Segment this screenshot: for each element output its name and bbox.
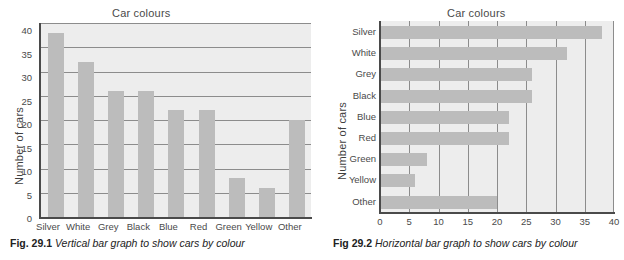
bar-red [199,110,215,217]
hbar-yellow [380,174,415,187]
gridline-x-35 [585,21,586,212]
y-tick-25: 25 [10,96,32,107]
y-axis-line-horizontal [379,21,381,213]
cat-label-red: Red [184,221,214,232]
gridline-35 [40,47,311,48]
hbar-grey [380,68,532,81]
bar-grey [108,91,124,217]
cat-label-yellow: Yellow [243,221,275,232]
cat-label-yellow-h: Yellow [338,174,376,185]
cat-label-other-h: Other [338,196,376,207]
caption-29-1: Fig. 29.1 Vertical bar graph to show car… [10,237,245,249]
cat-label-blue-h: Blue [340,111,376,122]
cat-label-white-h: White [340,47,376,58]
hbar-red [380,132,509,145]
cat-label-white: White [63,221,93,232]
hbar-green [380,153,427,166]
x-tick-5: 5 [399,216,419,227]
bar-black [138,91,154,217]
x-tick-25: 25 [516,216,536,227]
figure-29-2: Car colours Number of cars Silver White … [318,0,624,260]
x-tick-35: 35 [575,216,595,227]
plot-area-horizontal [380,21,614,212]
caption-number-29-1: Fig. 29.1 [10,237,52,249]
y-tick-10: 10 [10,166,32,177]
bar-green [229,178,245,217]
cat-label-grey-h: Grey [340,68,376,79]
figure-page: Car colours Number of cars 0 5 10 15 20 … [0,0,624,260]
bar-yellow [259,188,275,217]
y-tick-15: 15 [10,143,32,154]
x-tick-10: 10 [429,216,449,227]
y-tick-35: 35 [10,49,32,60]
hbar-white [380,47,567,60]
x-axis-line-horizontal [379,212,615,214]
caption-text-29-1: Vertical bar graph to show cars by colou… [55,237,245,249]
chart-title-horizontal: Car colours [447,7,505,19]
hbar-silver [380,26,602,39]
x-tick-20: 20 [487,216,507,227]
y-tick-5: 5 [10,190,32,201]
cat-label-green-h: Green [338,153,376,164]
x-tick-0: 0 [370,216,390,227]
caption-29-2: Fig 29.2 Horizontal bar graph to show ca… [333,237,578,249]
figure-29-1: Car colours Number of cars 0 5 10 15 20 … [0,0,318,260]
y-tick-40: 40 [10,25,32,36]
caption-number-29-2: Fig 29.2 [333,237,372,249]
caption-text-29-2: Horizontal bar graph to show cars by col… [375,237,578,249]
cat-label-silver-h: Silver [340,26,376,37]
cat-label-black-h: Black [340,90,376,101]
cat-label-other: Other [274,221,306,232]
cat-label-black: Black [123,221,153,232]
y-axis-line-vertical [39,23,41,218]
x-tick-15: 15 [458,216,478,227]
y-tick-20: 20 [10,119,32,130]
cat-label-green: Green [213,221,245,232]
x-axis-line-vertical [39,217,312,219]
hbar-black [380,90,532,103]
y-tick-0: 0 [10,213,32,224]
bar-other [289,120,305,217]
chart-title-vertical: Car colours [112,7,170,19]
cat-label-grey: Grey [93,221,123,232]
y-tick-30: 30 [10,72,32,83]
cat-label-red-h: Red [340,132,376,143]
plot-area-vertical [40,23,311,217]
bar-white [78,62,94,217]
cat-label-blue: Blue [153,221,183,232]
hbar-other [380,196,497,209]
x-tick-30: 30 [546,216,566,227]
cat-label-silver: Silver [33,221,63,232]
x-tick-40: 40 [604,216,624,227]
gridline-x-40 [613,21,614,212]
bar-blue [168,110,184,217]
bar-silver [48,33,64,217]
hbar-blue [380,111,509,124]
gridline-40 [40,23,311,24]
